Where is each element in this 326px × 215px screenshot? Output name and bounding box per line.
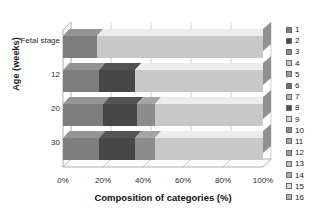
legend-label: 15	[295, 181, 304, 192]
legend-swatch-icon	[286, 105, 292, 111]
bar-segment[interactable]	[99, 70, 135, 92]
plot-area	[63, 22, 271, 167]
bar-segment[interactable]	[63, 70, 99, 92]
legend-swatch-icon	[286, 94, 292, 100]
legend-label: 2	[295, 35, 299, 46]
legend-item[interactable]: 6	[286, 80, 326, 91]
bar-segment-top-face	[97, 29, 269, 36]
y-tick-label: 12	[0, 70, 60, 79]
bar-segment-top-face	[155, 97, 269, 104]
bar-row	[63, 104, 263, 126]
bar-segment[interactable]	[63, 104, 103, 126]
legend-item[interactable]: 1	[286, 24, 326, 35]
chart-container: Age (weeks) Fetal stage 12 20 30	[0, 0, 326, 215]
legend-item[interactable]: 11	[286, 136, 326, 147]
legend-swatch-icon	[286, 49, 292, 55]
legend-swatch-icon	[286, 138, 292, 144]
legend-item[interactable]: 8	[286, 102, 326, 113]
bar-segment[interactable]	[63, 36, 97, 58]
legend-swatch-icon	[286, 60, 292, 66]
legend-label: 14	[295, 170, 304, 181]
legend: 12345678910111213141516	[286, 24, 326, 203]
legend-swatch-icon	[286, 116, 292, 122]
y-axis-tick-labels: Fetal stage 12 20 30	[0, 0, 60, 170]
legend-swatch-icon	[286, 83, 292, 89]
x-tick-label: 40%	[126, 176, 160, 185]
legend-label: 12	[295, 147, 304, 158]
legend-item[interactable]: 16	[286, 192, 326, 203]
legend-label: 3	[295, 46, 299, 57]
legend-label: 7	[295, 91, 299, 102]
x-tick-label: 20%	[86, 176, 120, 185]
legend-item[interactable]: 9	[286, 114, 326, 125]
legend-label: 4	[295, 58, 299, 69]
y-tick-label: 30	[0, 138, 60, 147]
legend-item[interactable]: 12	[286, 147, 326, 158]
legend-swatch-icon	[286, 194, 292, 200]
x-axis-title: Composition of categories (%)	[38, 192, 288, 203]
y-tick-label: Fetal stage	[0, 36, 60, 45]
x-tick-label: 80%	[206, 176, 240, 185]
bar-row	[63, 138, 263, 160]
legend-swatch-icon	[286, 172, 292, 178]
legend-label: 9	[295, 114, 299, 125]
x-axis-tick-labels: 0% 20% 40% 60% 80% 100%	[0, 176, 326, 188]
legend-item[interactable]: 13	[286, 158, 326, 169]
bar-segment[interactable]	[155, 138, 263, 160]
bar-row	[63, 70, 263, 92]
legend-item[interactable]: 4	[286, 58, 326, 69]
x-tick-label: 0%	[46, 176, 80, 185]
bar-segment[interactable]	[63, 138, 99, 160]
bar-segment[interactable]	[155, 104, 263, 126]
legend-swatch-icon	[286, 161, 292, 167]
legend-item[interactable]: 14	[286, 169, 326, 180]
legend-item[interactable]: 15	[286, 181, 326, 192]
bar-segment[interactable]	[97, 36, 263, 58]
legend-label: 13	[295, 158, 304, 169]
x-tick-label: 100%	[246, 176, 280, 185]
bar-segment[interactable]	[135, 70, 263, 92]
bar-segment[interactable]	[137, 104, 155, 126]
legend-swatch-icon	[286, 183, 292, 189]
legend-swatch-icon	[286, 38, 292, 44]
legend-item[interactable]: 10	[286, 125, 326, 136]
bar-segment[interactable]	[135, 138, 155, 160]
legend-label: 5	[295, 69, 299, 80]
legend-swatch-icon	[286, 71, 292, 77]
legend-label: 10	[295, 125, 304, 136]
bar-segment[interactable]	[99, 138, 135, 160]
legend-item[interactable]: 3	[286, 46, 326, 57]
legend-label: 6	[295, 80, 299, 91]
legend-label: 8	[295, 102, 299, 113]
bar-segment-top-face	[135, 63, 269, 70]
legend-item[interactable]: 5	[286, 69, 326, 80]
legend-label: 16	[295, 192, 304, 203]
legend-swatch-icon	[286, 127, 292, 133]
bar-row	[63, 36, 263, 58]
x-tick-label: 60%	[166, 176, 200, 185]
bar-segment-top-face	[155, 131, 269, 138]
legend-swatch-icon	[286, 27, 292, 33]
y-tick-label: 20	[0, 104, 60, 113]
legend-item[interactable]: 2	[286, 35, 326, 46]
bar-segment[interactable]	[103, 104, 137, 126]
legend-label: 1	[295, 24, 299, 35]
legend-swatch-icon	[286, 150, 292, 156]
legend-item[interactable]: 7	[286, 91, 326, 102]
legend-label: 11	[295, 136, 303, 147]
